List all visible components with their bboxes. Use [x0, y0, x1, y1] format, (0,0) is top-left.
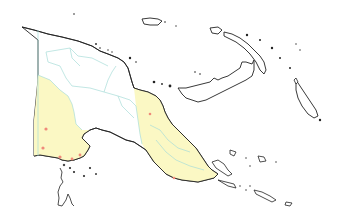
region-morobe-central	[134, 88, 218, 182]
island-bougainville	[296, 80, 318, 118]
marker[interactable]	[44, 127, 47, 130]
island-new-hanover	[210, 27, 222, 34]
marker[interactable]	[58, 155, 61, 158]
torres-strait-islands	[58, 164, 97, 206]
milne-bay-dots	[239, 157, 276, 190]
island-new-britain	[178, 60, 254, 102]
mainland	[22, 27, 218, 182]
milne-bay-islands	[212, 150, 292, 206]
map-canvas	[0, 0, 347, 222]
marker[interactable]	[71, 158, 74, 161]
island-buka	[294, 78, 298, 84]
marker[interactable]	[173, 177, 176, 180]
marker[interactable]	[41, 146, 44, 149]
island-manus	[142, 18, 162, 25]
marker[interactable]	[149, 113, 152, 116]
marker[interactable]	[79, 154, 82, 157]
